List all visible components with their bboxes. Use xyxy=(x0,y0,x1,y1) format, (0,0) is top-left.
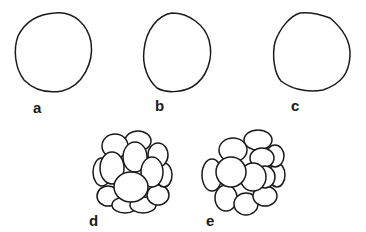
panel-b-cell xyxy=(144,13,211,92)
panel-label-d: d xyxy=(89,213,98,228)
panel-d-cluster xyxy=(93,131,172,213)
diagram-canvas xyxy=(0,0,366,232)
panel-label-e: e xyxy=(206,213,214,228)
panel-label-a: a xyxy=(33,100,41,115)
panel-e-cluster xyxy=(202,130,285,215)
panel-c-cell xyxy=(274,13,350,91)
panel-label-c: c xyxy=(291,98,299,113)
panel-a-cell xyxy=(15,13,91,92)
panel-label-b: b xyxy=(155,98,164,113)
